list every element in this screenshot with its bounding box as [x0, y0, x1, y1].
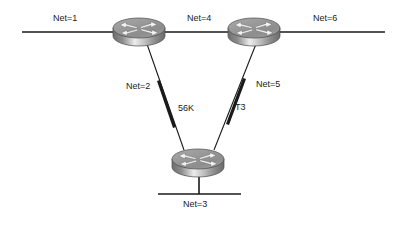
serial-link-net-2-thick-segment	[157, 80, 176, 128]
router-icon	[228, 18, 280, 46]
router-top-left[interactable]	[113, 18, 165, 46]
router-top-right[interactable]	[228, 18, 280, 46]
router-icon	[113, 18, 165, 46]
router-bottom[interactable]	[172, 149, 224, 177]
label-net-2: Net=2	[126, 81, 150, 92]
label-speed-56k: 56K	[178, 103, 194, 114]
serial-link-net-5-line	[214, 44, 256, 150]
label-net-3: Net=3	[183, 199, 207, 210]
label-speed-t3: T3	[235, 102, 246, 113]
label-net-4: Net=4	[187, 13, 211, 24]
router-icon	[172, 149, 224, 177]
network-diagram-canvas	[0, 0, 404, 227]
label-net-1: Net=1	[53, 13, 77, 24]
label-net-6: Net=6	[313, 13, 337, 24]
label-net-5: Net=5	[256, 79, 280, 90]
